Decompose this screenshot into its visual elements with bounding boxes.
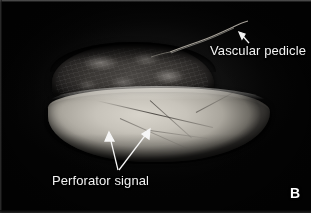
figure-panel: Vascular pedicle Perforator signal B <box>0 0 311 213</box>
scan-bottom-edge <box>0 210 311 213</box>
panel-letter: B <box>290 185 300 201</box>
label-perforator-signal: Perforator signal <box>52 174 149 188</box>
scan-left-edge <box>0 0 2 213</box>
annotation-arrows <box>0 0 311 213</box>
label-vascular-pedicle: Vascular pedicle <box>210 44 306 58</box>
scan-top-edge <box>0 0 311 2</box>
double-arrow-up <box>105 129 150 170</box>
up-left-arrow <box>239 32 249 43</box>
